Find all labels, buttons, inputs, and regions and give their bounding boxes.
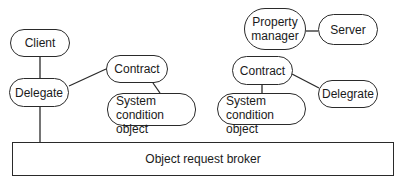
- sco-right-line1: System: [226, 94, 266, 108]
- contract-node-left: Contract: [106, 55, 168, 83]
- client-label: Client: [25, 36, 56, 50]
- client-node: Client: [10, 29, 70, 57]
- delegrate-node-right: Delegrate: [318, 80, 378, 108]
- sco-left-line2: condition object: [116, 108, 195, 136]
- property-manager-line2: manager: [251, 29, 298, 43]
- object-request-broker-box: Object request broker: [12, 142, 394, 176]
- delegate-node-left: Delegate: [9, 78, 69, 107]
- edge-contract-sco-left: [153, 83, 160, 93]
- property-manager-node: Property manager: [244, 8, 306, 50]
- sco-right-line2: condition object: [226, 108, 305, 136]
- contract-node-right: Contract: [232, 56, 293, 85]
- delegate-left-label: Delegate: [15, 86, 63, 100]
- property-manager-line1: Property: [252, 15, 297, 29]
- contract-left-label: Contract: [114, 62, 159, 76]
- delegrate-right-label: Delegrate: [322, 87, 374, 101]
- system-condition-object-node-right: System condition object: [217, 93, 306, 125]
- orb-label: Object request broker: [145, 152, 260, 166]
- server-node: Server: [318, 14, 378, 45]
- contract-right-label: Contract: [240, 64, 285, 78]
- sco-left-line1: System: [116, 94, 156, 108]
- server-label: Server: [330, 23, 365, 37]
- edge-delegate-contract: [69, 69, 106, 86]
- system-condition-object-node-left: System condition object: [107, 93, 196, 126]
- edge-contract-delegrate: [292, 74, 319, 88]
